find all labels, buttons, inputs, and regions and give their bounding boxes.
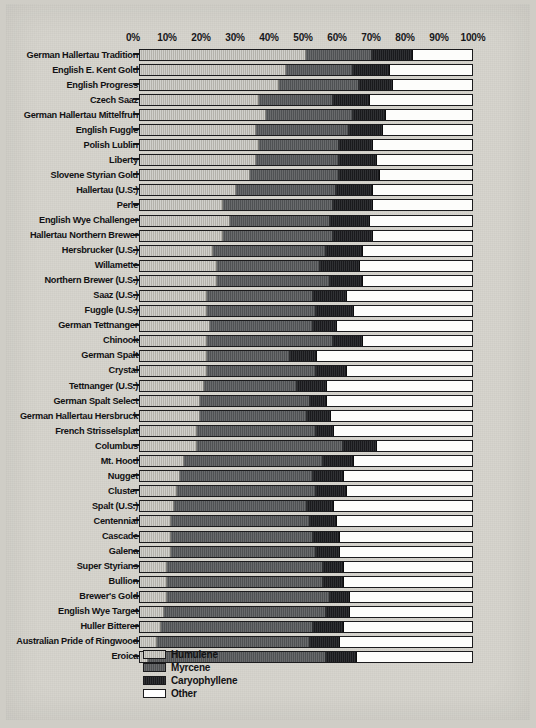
chart-row: Northern Brewer (U.S.): [6, 274, 536, 289]
bar-segment-myrcene: [171, 547, 317, 557]
bar-segment-humulene: [140, 321, 210, 331]
stacked-bar: [139, 260, 473, 272]
bar-segment-caryophyllene: [320, 261, 360, 271]
bar-segment-humulene: [140, 185, 236, 195]
bar-segment-caryophyllene: [313, 321, 337, 331]
chart-row: German Hallertau Tradition: [6, 48, 536, 63]
chart-row: French Strisselsplat: [6, 424, 536, 439]
row-label: English Progress: [0, 79, 138, 92]
bar-segment-myrcene: [259, 140, 339, 150]
bar-segment-humulene: [140, 486, 177, 496]
bar-segment-caryophyllene: [323, 562, 344, 572]
x-axis-tick: 60%: [327, 32, 346, 43]
bar-segment-other: [370, 216, 472, 226]
bar-segment-humulene: [140, 637, 157, 647]
bar-segment-other: [370, 95, 472, 105]
stacked-bar: [139, 576, 473, 588]
row-label: Mt. Hood: [0, 455, 138, 468]
stacked-bar: [139, 470, 473, 482]
bar-segment-caryophyllene: [333, 200, 373, 210]
row-label: German Spalt: [0, 349, 138, 362]
bar-segment-caryophyllene: [307, 501, 334, 511]
legend-swatch: [143, 663, 166, 672]
bar-segment-humulene: [140, 622, 161, 632]
bar-segment-caryophyllene: [310, 396, 327, 406]
bar-segment-myrcene: [279, 80, 359, 90]
stacked-bar: [139, 440, 473, 452]
bar-segment-other: [334, 426, 472, 436]
x-axis-tick: 90%: [429, 32, 448, 43]
bar-segment-other: [327, 396, 472, 406]
row-label: Fuggle (U.S.): [0, 304, 138, 317]
row-label: Czech Saaz: [0, 94, 138, 107]
chart-row: German Spalt: [6, 349, 536, 364]
bar-segment-other: [386, 110, 472, 120]
bar-segment-other: [363, 246, 472, 256]
bar-segment-caryophyllene: [313, 291, 347, 301]
legend-item: Myrcene: [143, 662, 237, 674]
bar-segment-myrcene: [207, 336, 333, 346]
bar-segment-humulene: [140, 200, 223, 210]
bar-segment-other: [354, 306, 472, 316]
bar-segment-other: [340, 547, 472, 557]
row-label: Eroica: [0, 650, 138, 663]
bar-segment-humulene: [140, 95, 259, 105]
row-label: German Spalt Select: [0, 395, 138, 408]
bar-segment-caryophyllene: [290, 351, 317, 361]
bar-segment-other: [350, 592, 472, 602]
bar-segment-other: [380, 170, 472, 180]
stacked-bar: [139, 455, 473, 467]
chart-row: Hersbrucker (U.S.): [6, 244, 536, 259]
chart-row: Centennial: [6, 514, 536, 529]
bar-segment-myrcene: [250, 170, 340, 180]
legend-label: Humulene: [171, 650, 218, 660]
bar-segment-humulene: [140, 246, 213, 256]
chart-row: Columbus: [6, 439, 536, 454]
stacked-bar: [139, 305, 473, 317]
bar-segment-other: [393, 80, 472, 90]
bar-segment-caryophyllene: [353, 65, 390, 75]
row-label: Perle: [0, 199, 138, 212]
stacked-bar: [139, 64, 473, 76]
bar-segment-other: [377, 155, 472, 165]
stacked-bar: [139, 124, 473, 136]
stacked-bar: [139, 395, 473, 407]
bar-segment-humulene: [140, 516, 171, 526]
row-label: Willamette: [0, 259, 138, 272]
bar-segment-humulene: [140, 276, 217, 286]
bar-segment-other: [363, 336, 472, 346]
bar-segment-humulene: [140, 140, 259, 150]
chart-row: Hallertau (U.S.): [6, 183, 536, 198]
stacked-bar: [139, 546, 473, 558]
row-label: Spalt (U.S.): [0, 500, 138, 513]
chart-row: German Hallertau Hersbruck: [6, 409, 536, 424]
chart-row: German Hallertau Mittelfruh: [6, 108, 536, 123]
bar-segment-other: [360, 261, 472, 271]
bar-segment-caryophyllene: [310, 637, 341, 647]
stacked-bar: [139, 49, 473, 61]
chart-legend: HumuleneMyrceneCaryophylleneOther: [143, 649, 237, 701]
chart-row: Mt. Hood: [6, 454, 536, 469]
bar-segment-humulene: [140, 577, 167, 587]
row-label: German Hallertau Mittelfruh: [0, 109, 138, 122]
bar-segment-myrcene: [197, 426, 316, 436]
bar-segment-humulene: [140, 396, 200, 406]
chart-row: Chinook: [6, 334, 536, 349]
row-label: Hallertau (U.S.): [0, 184, 138, 197]
stacked-bar: [139, 320, 473, 332]
bar-segment-other: [373, 140, 472, 150]
bar-segment-other: [383, 125, 472, 135]
row-label: German Hallertau Tradition: [0, 49, 138, 62]
bar-segment-caryophyllene: [353, 110, 387, 120]
row-label: Cluster: [0, 485, 138, 498]
stacked-bar: [139, 561, 473, 573]
bar-segment-myrcene: [180, 471, 313, 481]
chart-row: English Wye Challenger: [6, 214, 536, 229]
bar-segment-myrcene: [184, 456, 323, 466]
x-axis-tick: 20%: [191, 32, 210, 43]
legend-swatch: [143, 689, 166, 698]
bar-segment-other: [413, 50, 472, 60]
legend-swatch: [143, 676, 166, 685]
chart-row: Bullion: [6, 575, 536, 590]
bar-segment-humulene: [140, 125, 256, 135]
